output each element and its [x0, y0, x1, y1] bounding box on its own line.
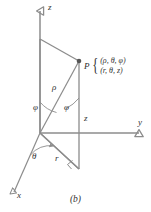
coordinate-pairs: (ρ, θ, φ) (r, θ, z) — [100, 56, 126, 76]
r-segment — [40, 133, 79, 169]
z-height-label: z — [84, 114, 88, 123]
figure-caption: (b) — [0, 194, 151, 204]
spherical-coordinates: (ρ, θ, φ) — [100, 56, 126, 66]
point-p-marker — [77, 59, 82, 64]
theta-label: θ — [32, 152, 36, 161]
point-p-annotation: P { (ρ, θ, φ) (r, θ, z) — [84, 56, 126, 76]
plane-edge-top — [40, 39, 79, 61]
coordinate-system-figure: z y x ρ φ φ z θ r P { (ρ, θ, φ) (r, θ, z… — [0, 0, 151, 212]
brace-icon: { — [92, 58, 98, 73]
phi-upper-label: φ — [33, 103, 38, 112]
diagram-canvas — [0, 0, 151, 212]
rho-label: ρ — [52, 83, 56, 92]
phi-lower-label: φ — [64, 103, 69, 112]
r-label: r — [55, 154, 59, 163]
cylindrical-coordinates: (r, θ, z) — [100, 66, 126, 76]
z-axis-label: z — [48, 3, 52, 12]
y-axis-label: y — [138, 118, 142, 127]
point-p-label: P — [84, 61, 90, 71]
rho-segment — [40, 61, 79, 133]
x-axis-line — [14, 133, 40, 192]
